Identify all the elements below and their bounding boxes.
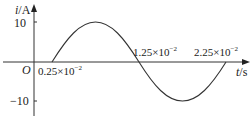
y-axis-label: i/A [15, 3, 31, 17]
x-tick-label-1.25e-2: 1.25×10−2 [133, 45, 177, 58]
sine-current-chart: i/A 10 −10 O 0.25×10−2 1.25×10−2 2.25×10… [0, 0, 251, 118]
x-tick-label-2.25e-2: 2.25×10−2 [194, 45, 238, 58]
x-axis-label: t/s [236, 65, 248, 79]
x-tick-label-0.25e-2: 0.25×10−2 [38, 64, 82, 77]
y-axis-arrow-icon [31, 4, 37, 12]
y-tick-label-neg10: −10 [10, 94, 29, 108]
y-tick-label-10: 10 [14, 16, 26, 30]
origin-label: O [22, 63, 31, 77]
